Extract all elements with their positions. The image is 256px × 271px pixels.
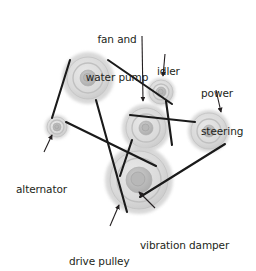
pulley-alternator (45, 115, 69, 139)
pulley-fan-and-water-pump (122, 104, 170, 152)
label-alternator-line1: alternator (16, 183, 67, 196)
label-power-steering-line1: power (201, 87, 243, 100)
pulley-bolt (131, 172, 145, 186)
pulley-bolt (55, 125, 59, 129)
label-power-steering: power steering (201, 62, 243, 162)
label-fan-and-water-pump-line2: water pump (74, 71, 160, 84)
leader-alternator (44, 135, 52, 152)
label-alternator: alternator (16, 158, 67, 221)
label-power-steering-line2: steering (201, 125, 243, 138)
label-idler: idler (157, 40, 180, 103)
label-vibration-damper-line1: vibration damper (140, 239, 229, 252)
pulley-bolt (142, 124, 149, 131)
pulley-vibration-damper (105, 146, 173, 214)
label-drive-pulley: drive pulley (69, 230, 130, 271)
leader-drive-pulley (110, 205, 119, 226)
label-idler-line1: idler (157, 65, 180, 78)
label-fan-and-water-pump: fan and water pump (74, 8, 160, 108)
label-vibration-damper: vibration damper (140, 214, 229, 271)
label-fan-and-water-pump-line1: fan and (74, 33, 160, 46)
label-drive-pulley-line1: drive pulley (69, 255, 130, 268)
